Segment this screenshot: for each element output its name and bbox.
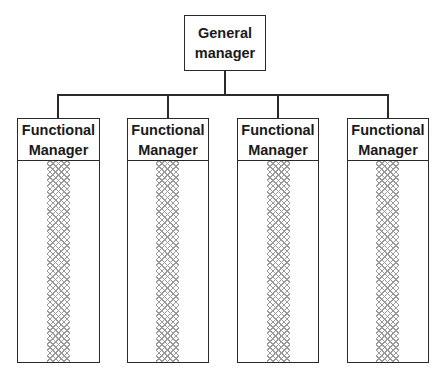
general-manager-box: General manager: [184, 15, 266, 71]
general-manager-label-line1: General: [185, 23, 265, 43]
unit4-connector: [387, 94, 389, 118]
unit-label-line1: Functional: [238, 120, 318, 140]
functional-manager-header: Functional Manager: [128, 119, 208, 161]
unit3-connector: [277, 94, 279, 118]
functional-manager-header: Functional Manager: [18, 119, 99, 161]
unit-body: [128, 161, 208, 362]
functional-unit-3: Functional Manager: [237, 118, 319, 363]
unit-body: [348, 161, 428, 362]
unit1-connector: [57, 94, 59, 118]
gm-vertical-connector: [224, 71, 226, 95]
unit-label-line1: Functional: [348, 120, 428, 140]
hatched-stripe: [267, 161, 290, 362]
hatched-stripe: [156, 161, 179, 362]
hatched-stripe: [47, 161, 70, 362]
functional-unit-4: Functional Manager: [347, 118, 429, 363]
functional-manager-header: Functional Manager: [348, 119, 428, 161]
functional-manager-header: Functional Manager: [238, 119, 318, 161]
functional-unit-1: Functional Manager: [17, 118, 100, 363]
general-manager-label-line2: manager: [185, 43, 265, 63]
horizontal-connector: [57, 94, 388, 96]
unit2-connector: [167, 94, 169, 118]
functional-unit-2: Functional Manager: [127, 118, 209, 363]
unit-label-line2: Manager: [128, 140, 208, 160]
unit-body: [18, 161, 99, 362]
unit-label-line1: Functional: [18, 120, 99, 140]
unit-label-line2: Manager: [18, 140, 99, 160]
unit-body: [238, 161, 318, 362]
unit-label-line1: Functional: [128, 120, 208, 140]
unit-label-line2: Manager: [348, 140, 428, 160]
unit-label-line2: Manager: [238, 140, 318, 160]
hatched-stripe: [376, 161, 399, 362]
